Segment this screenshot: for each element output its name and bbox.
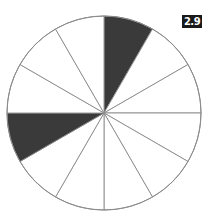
figure-label-badge: 2.9 — [182, 15, 202, 28]
circle-sectors — [7, 16, 201, 210]
fraction-circle-diagram — [0, 0, 213, 221]
